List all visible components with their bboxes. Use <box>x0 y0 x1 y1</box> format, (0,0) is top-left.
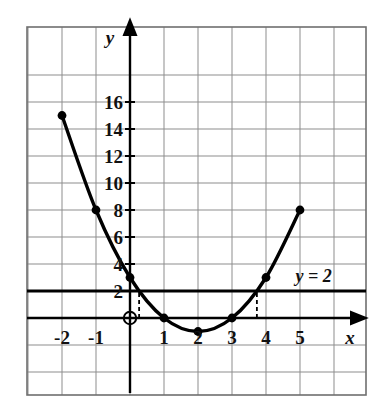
x-axis-label: x <box>345 328 355 347</box>
y-axis-tick-label: 14 <box>104 120 123 139</box>
x-axis-tick-label: 1 <box>159 328 169 347</box>
y-axis-tick-label: 16 <box>104 93 123 112</box>
line-equation-label: y = 2 <box>295 267 331 285</box>
graph-figure: 246810121416-2-112345yxy = 2 <box>0 0 375 417</box>
y-axis-label: y <box>106 28 114 47</box>
y-axis-tick-label: 4 <box>114 255 124 274</box>
y-axis-tick-label: 6 <box>114 228 124 247</box>
data-point <box>228 314 237 323</box>
y-axis-tick-label: 10 <box>104 174 123 193</box>
coordinate-plane <box>0 0 375 417</box>
x-axis-tick-label: 5 <box>295 328 305 347</box>
y-axis-tick-label: 2 <box>114 282 124 301</box>
y-axis-tick-label: 8 <box>114 201 124 220</box>
data-point <box>58 111 67 120</box>
x-axis-tick-label: 3 <box>227 328 237 347</box>
data-point <box>296 206 305 215</box>
data-point <box>92 206 101 215</box>
x-axis-tick-label: 4 <box>261 328 271 347</box>
data-point <box>160 314 169 323</box>
data-point <box>262 273 271 282</box>
y-axis-tick-label: 12 <box>104 147 123 166</box>
x-axis-tick-label: -2 <box>54 328 70 347</box>
x-axis-tick-label: 2 <box>193 328 203 347</box>
data-point <box>126 273 135 282</box>
x-axis-tick-label: -1 <box>88 328 104 347</box>
